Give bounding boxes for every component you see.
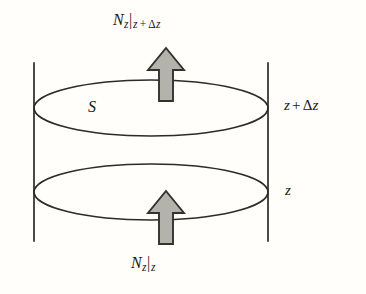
flux-bottom-symbol: N [131,254,142,271]
flux-top-delta: Δ [148,18,156,30]
flux-top-symbol: N [113,11,124,28]
cross-section-ellipse-top [34,80,268,136]
area-label: S [88,99,96,115]
position-top-delta: Δ [303,97,313,113]
flux-label-top: Nz|z+Δz [113,12,161,31]
flux-bottom-at-position: z [151,261,156,273]
position-top-plus: + [290,97,303,113]
area-symbol: S [88,98,96,115]
flux-top-delta-var: z [156,18,161,30]
position-label-top: z+Δz [284,98,319,113]
diagram-canvas [0,0,366,294]
flux-arrow-bottom-icon [148,191,184,244]
position-label-bottom: z [285,183,291,198]
flux-bottom-symbol-subscript: z [142,261,147,273]
shell-balance-diagram: Nz|z+Δz Nz|z z+Δz z S [0,0,366,294]
flux-top-symbol-subscript: z [124,18,129,30]
position-bottom-var: z [285,182,291,198]
flux-label-bottom: Nz|z [131,255,156,274]
flux-arrow-top-icon [148,48,184,101]
position-top-delta-var: z [313,97,319,113]
flux-top-plus: + [138,18,149,30]
